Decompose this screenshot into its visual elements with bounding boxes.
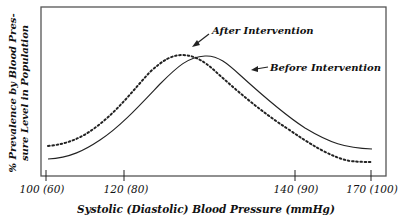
bp-distribution-chart: % Prevalence by Blood Pres- sure Level i…	[0, 0, 403, 218]
before-intervention-label: Before Intervention	[270, 62, 381, 73]
x-tick-label-100: 100 (60)	[20, 183, 65, 195]
x-tick-label-170: 170 (100)	[346, 183, 398, 195]
x-tick-label-120: 120 (80)	[104, 183, 149, 195]
after-arrow-icon	[192, 34, 209, 47]
before-arrow-icon	[251, 66, 268, 72]
after-intervention-label: After Intervention	[212, 25, 314, 36]
x-tick-label-140: 140 (90)	[274, 183, 319, 195]
y-axis-label: % Prevalence by Blood Pres- sure Level i…	[4, 8, 34, 178]
y-axis-label-line1: % Prevalence by Blood Pres-	[7, 13, 19, 172]
x-axis-label: Systolic (Diastolic) Blood Pressure (mmH…	[56, 203, 356, 215]
y-axis-label-line2: sure Level in Population	[19, 13, 31, 172]
